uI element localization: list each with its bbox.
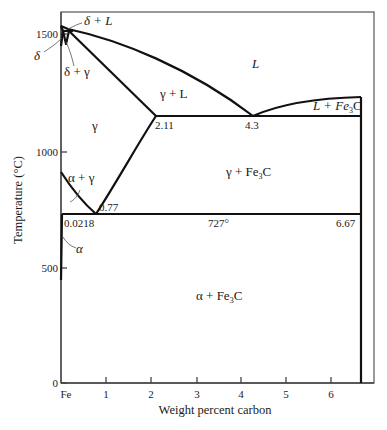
point-label-0.77: 0.77: [99, 201, 119, 213]
delta-boundary: [61, 26, 63, 46]
y-axis-title: Temperature (°C): [11, 156, 25, 244]
isotherm-label-727: 727°: [208, 217, 229, 229]
label-gamma-Fe3C-end: C: [263, 164, 272, 179]
label-alpha-Fe3C-main: α + Fe: [196, 288, 230, 303]
delta-gamma-leader: [66, 42, 74, 66]
label-alpha-gamma: α + γ: [68, 170, 95, 185]
alpha-solvus-line: [61, 214, 62, 280]
point-label-6.67: 6.67: [336, 217, 356, 229]
delta-leader: [44, 38, 62, 52]
acm-line: [96, 116, 156, 214]
label-L-Fe3C-end: C: [353, 98, 362, 113]
label-gamma: γ: [91, 118, 98, 133]
alpha-leader: [63, 237, 76, 248]
label-alpha-Fe3C: α + Fe3C: [196, 288, 242, 305]
x-axis-title: Weight percent carbon: [159, 403, 273, 417]
delta-L-leader: [68, 23, 82, 29]
y-tick-label: 1500: [36, 28, 59, 40]
x-tick-label: 6: [328, 388, 334, 400]
x-tick-label: 3: [194, 388, 200, 400]
y-tick-label: 1000: [36, 146, 59, 158]
label-L: L: [251, 56, 259, 71]
label-delta-L: δ + L: [84, 13, 113, 28]
label-L-Fe3C: L + Fe3C: [312, 98, 362, 115]
label-gamma-Fe3C: γ + Fe3C: [225, 164, 271, 181]
point-label-0.0218: 0.0218: [64, 217, 95, 229]
liquidus-line: [61, 26, 253, 116]
point-label-4.3: 4.3: [245, 119, 259, 131]
point-label-2.11: 2.11: [155, 119, 174, 131]
label-gamma-L: γ + L: [159, 86, 188, 101]
label-delta-gamma: δ + γ: [64, 64, 90, 79]
x-axis-ticks: [106, 377, 331, 383]
y-axis-ticks: [61, 34, 67, 383]
label-alpha: α: [76, 241, 84, 256]
y-tick-label: 0: [53, 377, 59, 389]
label-gamma-Fe3C-main: γ + Fe: [225, 164, 259, 179]
y-tick-label: 500: [42, 262, 59, 274]
label-L-Fe3C-main: L + Fe: [312, 98, 349, 113]
x-tick-label: 2: [148, 388, 154, 400]
x-tick-label: 1: [103, 388, 109, 400]
label-delta: δ: [34, 48, 41, 63]
x-tick-label: 4: [238, 388, 244, 400]
label-alpha-Fe3C-end: C: [234, 288, 243, 303]
x-tick-label: Fe: [61, 388, 72, 400]
iron-carbon-phase-diagram: 0 500 1000 1500 Fe 1 2 3 4 5 6 Weight pe…: [0, 0, 387, 430]
x-tick-label: 5: [283, 388, 289, 400]
